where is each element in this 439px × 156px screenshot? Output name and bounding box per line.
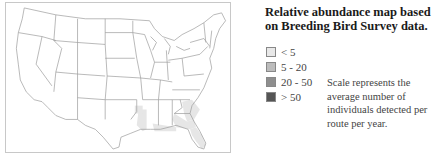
- legend-label: 5 - 20: [281, 61, 307, 73]
- legend-item: 20 - 50: [266, 75, 312, 88]
- scale-note: Scale represents the average number of i…: [327, 76, 439, 130]
- legend-swatch: [266, 92, 276, 102]
- legend-label: > 50: [281, 91, 301, 103]
- legend: < 5 5 - 20 20 - 50 > 50: [266, 45, 312, 105]
- us-map-svg: [6, 3, 230, 152]
- legend-item: 5 - 20: [266, 60, 312, 73]
- legend-item: > 50: [266, 90, 312, 103]
- legend-item: < 5: [266, 45, 312, 58]
- legend-swatch: [266, 62, 276, 72]
- legend-label: < 5: [281, 46, 295, 58]
- legend-swatch: [266, 77, 276, 87]
- shaded-range: [135, 100, 206, 149]
- legend-label: 20 - 50: [281, 76, 312, 88]
- abundance-map: [5, 2, 231, 153]
- map-title: Relative abundance map based on Breeding…: [265, 5, 437, 33]
- legend-swatch: [266, 47, 276, 57]
